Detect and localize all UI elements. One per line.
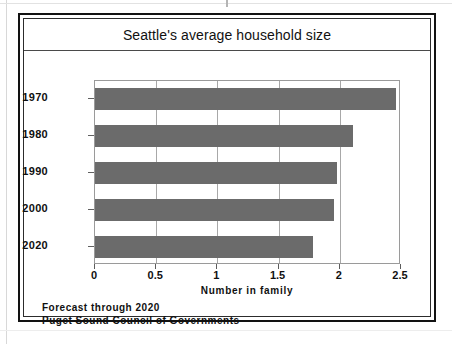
page-edge-bottom-artifact	[0, 330, 452, 331]
footnote-forecast: Forecast through 2020	[42, 301, 240, 314]
chart-title-band: Seattle's average household size	[24, 19, 430, 51]
chart-frame-inner-rule: Seattle's average household size 1970198…	[23, 18, 431, 317]
bar-row	[95, 199, 401, 221]
y-axis-tick	[88, 172, 94, 173]
y-axis-tick	[88, 98, 94, 99]
x-axis-label-1: 1	[196, 269, 236, 281]
x-axis-label-0.5: 0.5	[135, 269, 175, 281]
y-axis-tick	[88, 135, 94, 136]
footnote-source: Puget Sound Council of Governments	[42, 314, 240, 327]
bar-row	[95, 236, 401, 258]
chart-title: Seattle's average household size	[123, 27, 331, 43]
bar-1990	[95, 162, 337, 184]
x-axis-label-2: 2	[319, 269, 359, 281]
bar-row	[95, 125, 401, 147]
chart-footnotes: Forecast through 2020 Puget Sound Counci…	[42, 301, 240, 327]
y-axis-label-1970: 1970	[0, 91, 48, 103]
y-axis-tick	[88, 246, 94, 247]
y-axis-label-2000: 2000	[0, 202, 48, 214]
y-axis-label-1980: 1980	[0, 128, 48, 140]
bar-row	[95, 162, 401, 184]
page-registration-tick	[226, 0, 228, 7]
y-axis-label-1990: 1990	[0, 165, 48, 177]
bar-1980	[95, 125, 353, 147]
bar-row	[95, 88, 401, 110]
bar-2020	[95, 236, 313, 258]
x-axis-label-2.5: 2.5	[380, 269, 420, 281]
y-axis-label-2020: 2020	[0, 239, 48, 251]
bar-1970	[95, 88, 396, 110]
x-axis-label-1.5: 1.5	[258, 269, 298, 281]
y-axis-tick	[88, 209, 94, 210]
bar-2000	[95, 199, 334, 221]
x-axis-title: Number in family	[94, 285, 400, 296]
plot-area	[94, 80, 400, 264]
x-axis-label-0: 0	[74, 269, 114, 281]
chart-frame: Seattle's average household size 1970198…	[18, 13, 436, 322]
plot-zone: 19701980199020002020 00.511.522.5 Number…	[24, 52, 430, 316]
